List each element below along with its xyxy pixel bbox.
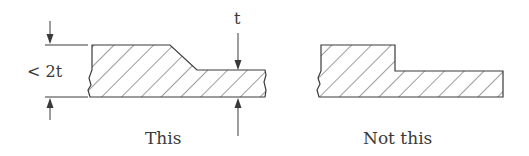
caption-this: This <box>145 128 181 148</box>
dimension-label: < 2t <box>27 62 63 81</box>
diagram-canvas: < 2t t This Not this <box>0 0 529 156</box>
thickness-arrow-up-icon <box>235 98 242 136</box>
abrupt-step-section <box>317 45 503 97</box>
thickness-arrow-down-icon <box>235 33 242 70</box>
thickness-label: t <box>234 9 241 28</box>
dimension-arrow-up-icon <box>47 98 54 120</box>
caption-not-this: Not this <box>363 128 432 148</box>
tapered-section <box>88 45 266 97</box>
dimension-arrow-down-icon <box>47 21 54 44</box>
